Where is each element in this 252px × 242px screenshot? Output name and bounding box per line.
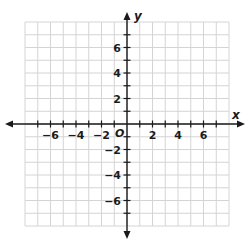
- axes: [5, 12, 245, 239]
- x-axis-label: x: [231, 108, 241, 122]
- x-tick-label: 2: [149, 129, 157, 142]
- y-tick-label: −6: [104, 195, 121, 208]
- y-tick-label: 2: [113, 93, 121, 106]
- y-tick-label: 4: [113, 67, 121, 80]
- x-axis-arrow-left-icon: [5, 121, 13, 128]
- x-tick-label: −2: [93, 129, 110, 142]
- origin-label: O: [115, 127, 124, 140]
- x-tick-label: 4: [174, 129, 182, 142]
- coordinate-plane: −6−4−2246642−2−4−6 x y O: [0, 0, 252, 242]
- y-axis-arrow-up-icon: [124, 12, 131, 20]
- y-tick-label: −4: [104, 169, 121, 182]
- y-axis-arrow-down-icon: [124, 231, 131, 239]
- y-tick-label: −2: [104, 144, 121, 157]
- x-tick-label: −4: [68, 129, 85, 142]
- y-tick-label: 6: [113, 42, 121, 55]
- y-axis-label: y: [134, 9, 143, 23]
- x-tick-label: 6: [200, 129, 208, 142]
- x-tick-label: −6: [42, 129, 59, 142]
